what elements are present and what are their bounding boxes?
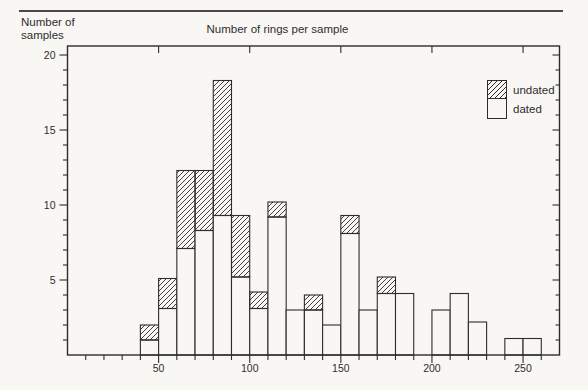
undated-hatch-swatch: [487, 80, 507, 99]
histogram-bar: [505, 339, 523, 356]
dated-segment: [213, 216, 231, 356]
histogram-bar: [232, 216, 250, 356]
dated-segment: [396, 294, 414, 356]
histogram-bar: [177, 171, 195, 356]
svg-text:150: 150: [332, 362, 350, 374]
dated-segment: [195, 231, 213, 356]
histogram-bar: [468, 322, 486, 355]
dated-plain-swatch: [487, 98, 507, 119]
histogram-bar: [450, 294, 468, 356]
undated-segment: [177, 171, 195, 249]
undated-segment: [304, 295, 322, 310]
undated-segment: [377, 277, 395, 294]
svg-text:10: 10: [44, 199, 56, 211]
histogram-bar: [250, 292, 268, 355]
svg-text:100: 100: [241, 362, 259, 374]
histogram-bar: [140, 325, 158, 355]
legend-entry-undated: undated: [487, 80, 555, 99]
histogram-bar: [268, 202, 286, 355]
dated-segment: [286, 310, 304, 355]
dated-segment: [177, 249, 195, 356]
dated-segment: [250, 309, 268, 356]
histogram-bar: [359, 310, 377, 355]
undated-segment: [341, 216, 359, 234]
histogram-bar: [396, 294, 414, 356]
undated-segment: [232, 216, 250, 278]
svg-text:250: 250: [514, 362, 532, 374]
histogram-bar: [159, 279, 177, 356]
dated-segment: [304, 310, 322, 355]
undated-segment: [250, 292, 268, 309]
svg-text:20: 20: [44, 49, 56, 61]
histogram-bar: [523, 339, 541, 356]
dated-segment: [432, 310, 450, 355]
svg-text:50: 50: [153, 362, 165, 374]
bars: [140, 81, 541, 356]
histogram-bar: [432, 310, 450, 355]
undated-segment: [195, 171, 213, 231]
dated-segment: [159, 309, 177, 356]
dated-segment: [341, 234, 359, 356]
dated-segment: [523, 339, 541, 356]
dated-segment: [323, 325, 341, 355]
histogram-plot: 510152050100150200250: [0, 0, 588, 390]
dated-segment: [232, 277, 250, 355]
legend-label-undated: undated: [513, 84, 555, 96]
legend-entry-dated: dated: [487, 98, 555, 119]
histogram-bar: [213, 81, 231, 356]
dated-segment: [377, 294, 395, 356]
undated-segment: [213, 81, 231, 216]
dated-segment: [450, 294, 468, 356]
histogram-bar: [377, 277, 395, 355]
figure-page: Number of samples Number of rings per sa…: [0, 0, 588, 390]
svg-text:15: 15: [44, 124, 56, 136]
dated-segment: [359, 310, 377, 355]
x-tick-labels: 50100150200250: [153, 362, 532, 374]
histogram-bar: [286, 310, 304, 355]
undated-segment: [268, 202, 286, 217]
dated-segment: [505, 339, 523, 356]
histogram-bar: [323, 325, 341, 355]
svg-text:200: 200: [423, 362, 441, 374]
histogram-bar: [341, 216, 359, 356]
histogram-bar: [304, 295, 322, 355]
dated-segment: [140, 340, 158, 355]
legend: undated dated: [487, 80, 555, 119]
undated-segment: [159, 279, 177, 309]
histogram-bar: [195, 171, 213, 356]
y-tick-labels: 5101520: [44, 49, 56, 286]
dated-segment: [468, 322, 486, 355]
legend-label-dated: dated: [513, 103, 542, 115]
undated-segment: [140, 325, 158, 340]
svg-text:5: 5: [50, 274, 56, 286]
dated-segment: [268, 217, 286, 355]
